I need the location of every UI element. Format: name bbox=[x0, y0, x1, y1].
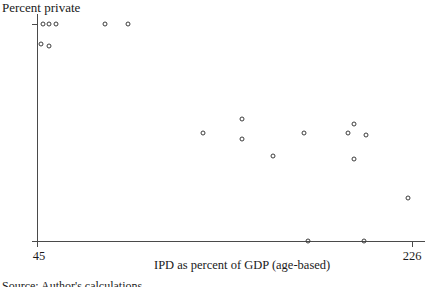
data-point bbox=[240, 117, 245, 122]
data-point bbox=[351, 121, 356, 126]
x-axis-title: IPD as percent of GDP (age-based) bbox=[154, 258, 330, 273]
data-point bbox=[364, 132, 369, 137]
y-axis-line bbox=[37, 14, 38, 242]
x-tick-label-45: 45 bbox=[33, 249, 46, 263]
y-tick-mark-100 bbox=[32, 24, 37, 25]
x-tick-mark-226 bbox=[412, 242, 413, 247]
data-point bbox=[39, 41, 44, 46]
data-point bbox=[405, 195, 410, 200]
y-axis-title: Percent private bbox=[2, 0, 80, 15]
data-point bbox=[53, 22, 58, 27]
data-point bbox=[302, 130, 307, 135]
data-point bbox=[47, 43, 52, 48]
data-point bbox=[351, 156, 356, 161]
data-point bbox=[271, 154, 276, 159]
data-point bbox=[200, 130, 205, 135]
data-point bbox=[103, 22, 108, 27]
data-point bbox=[126, 22, 131, 27]
footer-note-clipped: Source: Author's calculations. bbox=[2, 279, 145, 287]
scatter-plot-figure: Percent private 100 0 45 226 IPD as perc… bbox=[0, 0, 429, 287]
x-tick-mark-45 bbox=[37, 242, 38, 247]
data-point bbox=[345, 130, 350, 135]
data-point bbox=[41, 22, 46, 27]
x-tick-label-226: 226 bbox=[403, 249, 422, 263]
data-point bbox=[240, 137, 245, 142]
data-point bbox=[47, 22, 52, 27]
data-point bbox=[362, 239, 367, 244]
data-point bbox=[306, 239, 311, 244]
